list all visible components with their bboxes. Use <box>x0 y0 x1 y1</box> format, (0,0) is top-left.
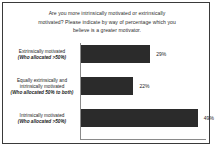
bar[interactable] <box>81 45 150 63</box>
chart-title-line-2: motivated? Please indicate by way of per… <box>17 18 197 27</box>
bar-category-label-line: (Who allocated 50% to both) <box>7 90 77 96</box>
bar-group: Equally extrinsically andintrinsically m… <box>3 77 211 109</box>
bar[interactable] <box>81 109 198 127</box>
bar-category-label-line: Equally extrinsically and <box>7 78 77 84</box>
bar-group: Intrinsically motivated(Who allocated >5… <box>3 109 211 141</box>
bar[interactable] <box>81 77 133 95</box>
bar-value-label: 29% <box>156 51 166 57</box>
bar-category-label: Intrinsically motivated(Who allocated >5… <box>7 113 77 126</box>
bar-category-label: Extrinsically motivated(Who allocated >5… <box>7 49 77 62</box>
bar-value-label: 22% <box>139 83 149 89</box>
bar-category-label-line: (Who allocated >50%) <box>7 119 77 125</box>
bar-category-label: Equally extrinsically andintrinsically m… <box>7 78 77 97</box>
bar-value-label: 49% <box>204 115 214 121</box>
chart-title-line-3: believe is a greater motivator. <box>17 26 197 35</box>
chart-title-line-1: Are you more intrinsically motivated or … <box>17 9 197 18</box>
bar-group: Extrinsically motivated(Who allocated >5… <box>3 45 211 77</box>
chart-title: Are you more intrinsically motivated or … <box>17 9 197 35</box>
bar-category-label-line: (Who allocated >50%) <box>7 55 77 61</box>
plot-area: Extrinsically motivated(Who allocated >5… <box>3 41 211 141</box>
chart-frame: Are you more intrinsically motivated or … <box>2 2 210 144</box>
